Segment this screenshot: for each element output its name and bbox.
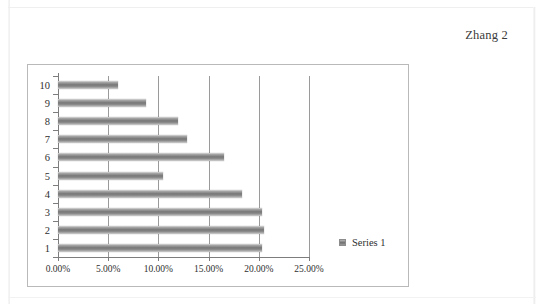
- document-page: Zhang 2 0.00%5.00%10.00%15.00%20.00%25.0…: [0, 0, 536, 304]
- bar-row: [58, 148, 224, 166]
- x-axis-tick-label: 25.00%: [294, 264, 323, 274]
- running-header: Zhang 2: [465, 28, 508, 43]
- series-1-swatch: [339, 239, 346, 246]
- y-axis-tick-label: 6: [28, 152, 50, 163]
- y-axis-tick-label: 1: [28, 242, 50, 253]
- y-axis-tick-label: 5: [28, 170, 50, 181]
- bar-row: [58, 203, 262, 221]
- page-top-edge: [8, 7, 536, 8]
- chart-container: 0.00%5.00%10.00%15.00%20.00%25.00% 12345…: [27, 64, 409, 287]
- x-axis-tick: [309, 257, 310, 261]
- chart-legend: Series 1: [339, 237, 386, 248]
- bar[interactable]: [58, 153, 224, 161]
- x-axis-tick: [158, 257, 159, 261]
- x-axis-tick-label: 0.00%: [46, 264, 71, 274]
- plot-area: [58, 76, 309, 257]
- y-axis-tick-label: 9: [28, 98, 50, 109]
- bar[interactable]: [58, 99, 146, 107]
- bar[interactable]: [58, 208, 262, 216]
- bar-row: [58, 94, 146, 112]
- bar-row: [58, 185, 242, 203]
- bar-row: [58, 76, 118, 94]
- y-axis-tick: [53, 257, 58, 258]
- bar[interactable]: [58, 190, 242, 198]
- bar-row: [58, 167, 163, 185]
- x-axis-tick-label: 15.00%: [194, 264, 223, 274]
- x-axis-line: [58, 257, 310, 258]
- y-axis-tick-label: 3: [28, 206, 50, 217]
- page-bottom-edge: [8, 297, 536, 298]
- x-axis-tick-label: 5.00%: [96, 264, 121, 274]
- bar-row: [58, 239, 262, 257]
- y-axis-tick-label: 7: [28, 134, 50, 145]
- bar[interactable]: [58, 117, 178, 125]
- x-axis-tick: [58, 257, 59, 261]
- bar[interactable]: [58, 226, 264, 234]
- bar[interactable]: [58, 81, 118, 89]
- x-axis-tick-label: 20.00%: [244, 264, 273, 274]
- bar[interactable]: [58, 135, 187, 143]
- x-axis-tick-label: 10.00%: [144, 264, 173, 274]
- y-axis-tick-label: 2: [28, 224, 50, 235]
- bar-row: [58, 130, 187, 148]
- bar[interactable]: [58, 172, 163, 180]
- y-axis-tick-label: 8: [28, 116, 50, 127]
- bar[interactable]: [58, 244, 262, 252]
- legend-item-label: Series 1: [352, 237, 386, 248]
- gridline: [309, 76, 310, 257]
- x-axis-tick: [259, 257, 260, 261]
- y-axis-tick-label: 4: [28, 188, 50, 199]
- x-axis-tick: [209, 257, 210, 261]
- page-left-edge: [8, 0, 10, 304]
- y-axis-tick-label: 10: [28, 80, 50, 91]
- bar-row: [58, 112, 178, 130]
- bar-row: [58, 221, 264, 239]
- x-axis-tick: [108, 257, 109, 261]
